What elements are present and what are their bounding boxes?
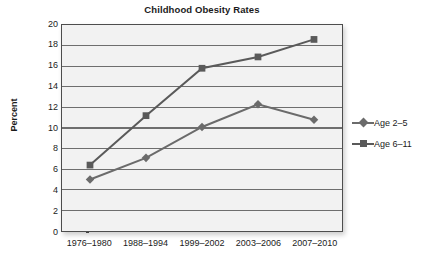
- y-tick-label: 10: [32, 124, 58, 133]
- data-point-marker: [255, 54, 262, 61]
- data-point-marker: [254, 100, 263, 109]
- legend-label: Age 6–11: [374, 139, 412, 149]
- y-tick-label: 20: [32, 20, 58, 29]
- data-point-marker: [142, 154, 151, 163]
- y-tick-label: 14: [32, 82, 58, 91]
- y-tick-label: 0: [32, 228, 58, 237]
- legend-label: Age 2–5: [374, 118, 408, 128]
- series-line: [90, 39, 314, 165]
- y-tick-label: 16: [32, 61, 58, 70]
- y-tick-label: 8: [32, 144, 58, 153]
- y-tick-mark: [86, 232, 89, 233]
- data-point-marker: [199, 65, 206, 72]
- x-tick-label: 1999–2002: [170, 238, 234, 248]
- chart-figure: Childhood Obesity Rates Percent 02468101…: [0, 0, 446, 271]
- data-point-marker: [86, 175, 95, 184]
- data-point-marker: [310, 116, 319, 125]
- x-axis-tick-labels: 1976–19801988–19941999–20022003–20062007…: [61, 238, 343, 252]
- x-tick-label: 2003–2006: [226, 238, 290, 248]
- plot-area: [61, 24, 343, 232]
- y-tick-label: 18: [32, 40, 58, 49]
- data-point-marker: [143, 112, 150, 119]
- legend-marker-square: [360, 140, 367, 147]
- y-tick-label: 12: [32, 103, 58, 112]
- y-axis-title: Percent: [9, 85, 19, 145]
- x-tick-label: 1988–1994: [114, 238, 178, 248]
- legend-key: [352, 138, 374, 150]
- data-point-marker: [87, 162, 94, 169]
- data-point-marker: [311, 36, 318, 43]
- chart-title: Childhood Obesity Rates: [61, 4, 343, 15]
- x-tick-label: 1976–1980: [57, 238, 121, 248]
- series-line: [90, 104, 314, 179]
- legend-marker-diamond: [359, 118, 369, 128]
- y-tick-label: 6: [32, 165, 58, 174]
- data-series-layer: [62, 25, 342, 231]
- y-tick-label: 4: [32, 186, 58, 195]
- y-axis-tick-labels: 02468101214161820: [28, 24, 58, 232]
- data-point-marker: [198, 123, 207, 132]
- legend-key: [352, 117, 374, 129]
- legend-item[interactable]: Age 6–11: [352, 133, 444, 154]
- x-tick-label: 2007–2010: [283, 238, 347, 248]
- legend-item[interactable]: Age 2–5: [352, 112, 444, 133]
- chart-legend: Age 2–5Age 6–11: [352, 112, 444, 154]
- y-tick-label: 2: [32, 207, 58, 216]
